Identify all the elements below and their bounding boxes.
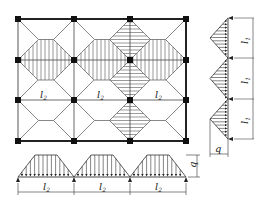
arrow-head-icon [225, 114, 228, 116]
arrow-head-icon [225, 53, 228, 55]
right-span-label-2: l1 [239, 77, 251, 84]
column-node [15, 57, 21, 63]
support-icon [228, 137, 233, 141]
arrow-head-icon [225, 93, 228, 95]
column-node [71, 16, 77, 22]
yield-line [18, 121, 39, 142]
arrow-head-icon [115, 174, 117, 177]
bottom-span-label-2: l2 [99, 181, 106, 193]
arrow-head-icon [225, 23, 228, 25]
bottom-span-label-3: l2 [155, 181, 162, 193]
arrow-head-icon [21, 174, 23, 177]
column-node [15, 97, 21, 103]
support-icon [184, 177, 188, 182]
yield-line [54, 121, 75, 142]
arrow-head-icon [225, 134, 228, 136]
right-load-q-label: q [215, 143, 221, 154]
yield-line [18, 40, 39, 61]
span-label-l2-3: l2 [155, 89, 162, 101]
yield-line [54, 100, 75, 121]
column-node [183, 57, 189, 63]
arrow-head-icon [81, 174, 83, 177]
arrow-head-icon [225, 43, 228, 45]
column-node [71, 57, 77, 63]
yield-line [54, 40, 75, 61]
yield-line [74, 19, 95, 40]
arrow-head-icon [102, 174, 104, 177]
support-icon [72, 177, 76, 182]
yield-line [18, 100, 39, 121]
arrow-head-icon [225, 80, 228, 82]
arrow-head-icon [225, 36, 228, 38]
arrow-head-icon [179, 174, 181, 177]
yield-line [74, 40, 95, 61]
right-span-label-1: l1 [239, 37, 251, 44]
column-node [127, 97, 133, 103]
right-span-label-3: l1 [239, 117, 251, 124]
arrow-head-icon [225, 70, 228, 72]
arrow-head-icon [171, 174, 173, 177]
arrow-head-icon [25, 174, 27, 177]
arrow-head-icon [133, 174, 135, 177]
arrow-head-icon [225, 63, 228, 65]
yield-line [166, 40, 187, 61]
arrow-head-icon [94, 174, 96, 177]
yield-line [54, 19, 75, 40]
arrow-head-icon [225, 33, 228, 35]
arrow-head-icon [77, 174, 79, 177]
arrow-head-icon [225, 27, 228, 29]
arrow-head-icon [154, 174, 156, 177]
arrow-head-icon [225, 76, 228, 78]
support-icon [228, 16, 233, 20]
arrow-head-icon [225, 124, 228, 126]
arrow-head-icon [225, 46, 228, 48]
arrow-head-icon [166, 174, 168, 177]
span-label-l2-2: l2 [97, 89, 104, 101]
arrow-head-icon [175, 174, 177, 177]
arrow-head-icon [225, 108, 228, 110]
arrow-head-icon [98, 174, 100, 177]
arrow-head-icon [225, 90, 228, 92]
arrow-head-icon [110, 174, 112, 177]
arrow-head-icon [29, 174, 31, 177]
arrow-head-icon [225, 50, 228, 52]
yield-line [166, 100, 187, 121]
arrow-head-icon [158, 174, 160, 177]
arrow-head-icon [123, 174, 125, 177]
arrow-head-icon [54, 174, 56, 177]
arrow-head-icon [225, 131, 228, 133]
arrow-head-icon [225, 86, 228, 88]
arrow-head-icon [119, 174, 121, 177]
yield-line [166, 19, 187, 40]
arrow-head-icon [162, 174, 164, 177]
arrow-head-icon [137, 174, 139, 177]
arrow-head-icon [150, 174, 152, 177]
arrow-head-icon [225, 40, 228, 42]
arrow-head-icon [85, 174, 87, 177]
column-node [127, 57, 133, 63]
yield-lines [18, 19, 186, 141]
arrow-head-icon [42, 174, 44, 177]
column-node [183, 97, 189, 103]
column-node [15, 138, 21, 144]
arrow-head-icon [50, 174, 52, 177]
arrow-head-icon [225, 30, 228, 32]
support-icon [228, 56, 233, 60]
arrow-head-icon [225, 121, 228, 123]
arrow-head-icon [46, 174, 48, 177]
yield-line [166, 121, 187, 142]
yield-line [74, 121, 95, 142]
support-icon [228, 97, 233, 101]
slab-plan [15, 16, 189, 144]
arrow-head-icon [106, 174, 108, 177]
support-icon [16, 177, 20, 182]
arrow-head-icon [225, 67, 228, 69]
column-node [127, 138, 133, 144]
arrow-head-icon [225, 111, 228, 113]
arrow-head-icon [225, 117, 228, 119]
column-node [15, 16, 21, 22]
column-node [183, 16, 189, 22]
arrow-head-icon [59, 174, 61, 177]
column-node [183, 138, 189, 144]
arrow-head-icon [63, 174, 65, 177]
